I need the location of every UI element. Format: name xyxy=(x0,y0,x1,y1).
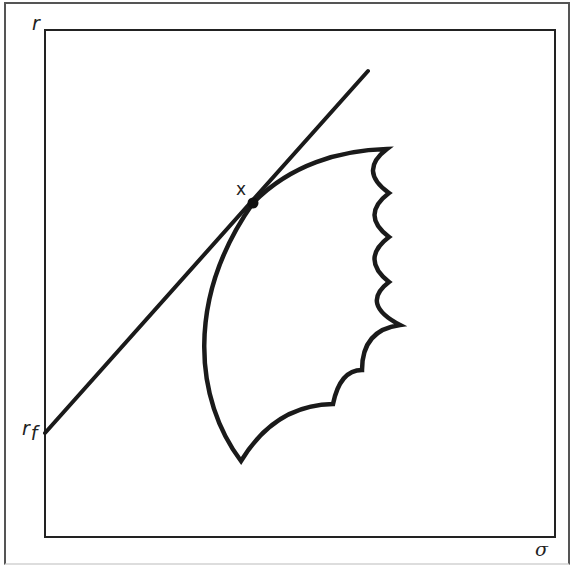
risk-free-rate-label: rf xyxy=(22,419,38,438)
feasible-set-region xyxy=(204,149,400,461)
y-axis-label: r xyxy=(32,14,40,33)
risk-free-rate-label-sub: f xyxy=(31,422,38,444)
risk-free-rate-label-main: r xyxy=(22,417,30,439)
diagram-canvas xyxy=(0,0,576,572)
tangency-point xyxy=(248,198,259,209)
plot-frame xyxy=(45,30,555,537)
tangency-point-label: x xyxy=(236,181,246,198)
x-axis-label: σ xyxy=(535,540,548,559)
